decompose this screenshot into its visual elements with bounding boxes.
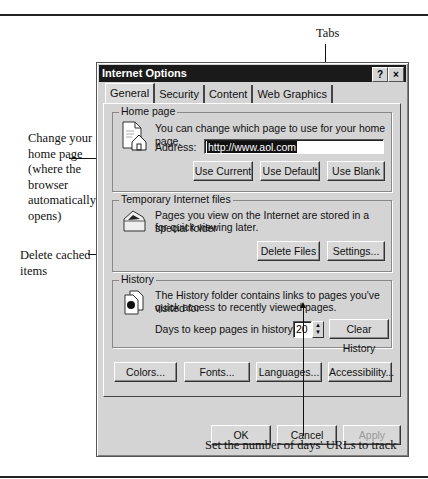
dialog-title: Internet Options (102, 67, 187, 79)
general-tab-panel: Home page You can change which page to u… (103, 103, 401, 397)
callout-tabs: Tabs (316, 26, 339, 42)
callout-line-text: automatically (28, 193, 96, 209)
callout-line-text: (where the (28, 162, 96, 178)
top-rule (0, 14, 428, 16)
days-to-keep-label: Days to keep pages in history: (155, 323, 296, 336)
arrowhead-icon (300, 302, 306, 308)
callout-line-text: opens) (28, 209, 96, 225)
temporary-files-description-2: for quick viewing later. (155, 221, 258, 234)
history-icon (123, 290, 147, 316)
address-label: Address: (155, 141, 196, 154)
address-input[interactable]: http://www.aol.com (204, 139, 384, 154)
callout-line-text: Delete cached (20, 248, 90, 264)
home-page-group: Home page You can change which page to u… (112, 112, 392, 192)
home-page-legend: Home page (119, 105, 177, 117)
help-button[interactable]: ? (372, 67, 388, 82)
callout-line-text: Change your (28, 131, 96, 147)
close-button[interactable]: × (388, 67, 404, 82)
internet-options-dialog: Internet Options ? × General Security Co… (96, 62, 409, 457)
history-group: History The History folder contains link… (112, 280, 392, 348)
callout-line-text: home page (28, 147, 96, 163)
title-bar[interactable]: Internet Options ? × (99, 65, 406, 82)
spin-down-icon[interactable]: ▼ (313, 329, 323, 336)
tab-security[interactable]: Security (155, 85, 205, 103)
callout-home-page: Change your home page (where the browser… (28, 131, 96, 224)
settings-button[interactable]: Settings... (327, 241, 385, 261)
temporary-files-legend: Temporary Internet files (119, 193, 233, 205)
tab-general[interactable]: General (105, 83, 155, 104)
callout-delete-cached: Delete cached items (20, 248, 90, 279)
languages-button[interactable]: Languages... (256, 362, 322, 382)
folder-icon (121, 209, 149, 233)
spin-up-icon[interactable]: ▲ (313, 322, 323, 329)
callout-days-urls: Set the number of days' URLs to track (205, 438, 396, 454)
temporary-files-group: Temporary Internet files Pages you view … (112, 200, 392, 272)
fonts-button[interactable]: Fonts... (184, 362, 250, 382)
tab-web-graphics[interactable]: Web Graphics (253, 85, 333, 103)
tab-strip: General Security Content Web Graphics (105, 85, 333, 103)
tab-content[interactable]: Content (205, 85, 254, 103)
use-blank-button[interactable]: Use Blank (327, 161, 385, 181)
use-default-button[interactable]: Use Default (260, 161, 320, 181)
days-spinner[interactable]: ▲ ▼ (312, 321, 324, 338)
home-page-icon (121, 121, 147, 151)
bottom-rule (0, 476, 428, 478)
history-description-2: quick access to recently viewed pages. (155, 301, 337, 314)
clear-history-button[interactable]: Clear History (329, 319, 389, 339)
accessibility-button[interactable]: Accessibility... (328, 362, 392, 382)
colors-button[interactable]: Colors... (114, 362, 177, 382)
callout-days-line (303, 306, 304, 436)
address-value: http://www.aol.com (207, 141, 297, 153)
history-legend: History (119, 273, 156, 285)
use-current-button[interactable]: Use Current (193, 161, 253, 181)
delete-files-button[interactable]: Delete Files (257, 241, 320, 261)
callout-line-text: items (20, 264, 90, 280)
callout-line-text: browser (28, 178, 96, 194)
